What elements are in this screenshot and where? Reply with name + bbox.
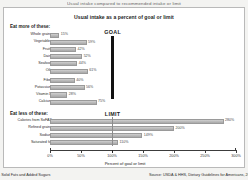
bar-value-label: 44% — [79, 61, 86, 67]
bar-row: Dairy52% — [4, 54, 246, 59]
bar-value-label: 42% — [77, 47, 84, 53]
plot-area: Eat more of these: Whole grains15%Vegeta… — [4, 8, 246, 169]
x-axis-tick — [50, 150, 51, 153]
bar-row: Calories from SoFAS280% — [4, 119, 246, 124]
bar-category-label: Saturated fat — [31, 140, 52, 146]
bar-value-label: 75% — [98, 99, 105, 105]
limit-marker-label: LIMIT — [105, 111, 121, 117]
goal-marker-label: GOAL — [104, 29, 121, 35]
x-axis-tick — [112, 150, 113, 153]
bar-value-label: 28% — [69, 92, 76, 98]
bar — [50, 33, 59, 38]
goal-marker-line — [111, 36, 113, 99]
section-heading-eat-less: Eat less of these: — [10, 111, 48, 116]
section-heading-eat-more: Eat more of these: — [10, 24, 50, 29]
bar — [50, 85, 85, 90]
bar — [50, 78, 75, 83]
x-axis-title: Percent of goal or limit — [4, 161, 246, 166]
bar-category-label: Refined grains — [28, 125, 52, 131]
bar — [50, 140, 118, 145]
bar — [50, 54, 82, 59]
bar-row: Oils61% — [4, 69, 246, 74]
x-axis-tick — [205, 150, 206, 153]
bar-row: Potassium56% — [4, 85, 246, 90]
bar-value-label: 110% — [120, 140, 129, 146]
x-axis-tick-label: 200% — [169, 154, 178, 158]
x-axis-tick — [174, 150, 175, 153]
bar — [50, 47, 76, 52]
bar-row: Vegetables59% — [4, 40, 246, 45]
bar-row: Fruits42% — [4, 47, 246, 52]
bar-value-label: 61% — [89, 68, 96, 74]
bar-row: Saturated fat110% — [4, 140, 246, 145]
footer-source-right: Source: USDA & HHS, Dietary Guidelines f… — [149, 173, 248, 177]
x-axis-tick-label: 0% — [47, 154, 52, 158]
x-axis-tick-label: 100% — [107, 154, 116, 158]
limit-marker-line — [112, 117, 114, 146]
bar-value-label: 280% — [225, 118, 234, 124]
bar-value-label: 59% — [88, 40, 95, 46]
top-banner-text: Usual intake compared to recommended int… — [0, 0, 248, 7]
screenshot-root: Usual intake compared to recommended int… — [0, 0, 248, 180]
bar-row: Sodium149% — [4, 133, 246, 138]
bar-row: Refined grains200% — [4, 126, 246, 131]
bar-value-label: 15% — [61, 32, 68, 38]
bar — [50, 119, 224, 124]
chart-card: Usual intake as a percent of goal or lim… — [3, 7, 245, 168]
bar-row: Vitamin D28% — [4, 92, 246, 97]
bar-value-label: 149% — [144, 133, 153, 139]
bar-value-label: 56% — [86, 85, 93, 91]
bar-category-label: Whole grains — [30, 32, 52, 38]
x-axis-tick — [236, 150, 237, 153]
x-axis-tick — [143, 150, 144, 153]
bar-row: Calcium75% — [4, 100, 246, 105]
x-axis-tick-label: 150% — [138, 154, 147, 158]
x-axis-tick-label: 250% — [200, 154, 209, 158]
bar — [50, 69, 88, 74]
bar-row: Whole grains15% — [4, 33, 246, 38]
bar — [50, 100, 97, 105]
bar — [50, 133, 142, 138]
footer-note-left: SoFAS = Solid Fats and Added Sugars — [0, 173, 50, 177]
bar — [50, 61, 77, 66]
bar-category-label: Calories from SoFAS — [18, 118, 52, 124]
x-axis-tick-label: 50% — [77, 154, 84, 158]
bar-value-label: 52% — [84, 54, 91, 60]
bar-row: Seafood44% — [4, 61, 246, 66]
bar — [50, 40, 87, 45]
x-axis-tick — [81, 150, 82, 153]
x-axis-tick-label: 300% — [231, 154, 240, 158]
bar-value-label: 40% — [76, 78, 83, 84]
bar-value-label: 200% — [175, 126, 184, 132]
bar — [50, 92, 67, 97]
bar-row: Fiber40% — [4, 78, 246, 83]
